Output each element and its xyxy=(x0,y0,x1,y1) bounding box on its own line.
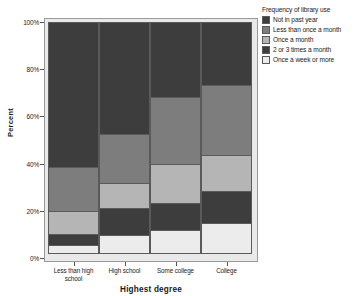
bar-segment xyxy=(150,230,201,254)
bar-segment xyxy=(150,164,201,204)
library-use-mosaic-chart: 0%20%40%60%80%100% Percent Less than hig… xyxy=(0,0,362,296)
x-tick-label: Some college xyxy=(150,267,201,275)
y-tick-mark xyxy=(40,22,44,23)
y-tick-label: 20% xyxy=(0,207,44,214)
legend-swatch-icon xyxy=(262,26,270,34)
legend-item[interactable]: Once a week or more xyxy=(262,56,362,65)
x-tick-mark xyxy=(74,262,75,266)
legend-swatch-icon xyxy=(262,56,270,64)
y-tick-mark xyxy=(40,211,44,212)
bar-segment xyxy=(48,22,99,168)
y-tick-mark xyxy=(40,116,44,117)
y-axis-label: Percent xyxy=(6,93,15,153)
bar-segment xyxy=(201,155,252,193)
bar-segment xyxy=(99,22,150,135)
bar-segment xyxy=(201,22,252,86)
y-tick-mark xyxy=(40,258,44,259)
legend-item-label: Once a month xyxy=(273,36,313,43)
bar-segment xyxy=(150,22,201,98)
x-tick-mark xyxy=(125,262,126,266)
y-tick-label: 80% xyxy=(0,66,44,73)
y-tick-label: 100% xyxy=(0,19,44,26)
bar-segment xyxy=(99,183,150,209)
legend-item-label: Less than once a month xyxy=(273,26,341,33)
x-tick-mark xyxy=(176,262,177,266)
x-tick-label: High school xyxy=(99,267,150,275)
legend-swatch-icon xyxy=(262,16,270,24)
bar-segment xyxy=(48,167,99,212)
legend-item[interactable]: Not in past year xyxy=(262,16,362,25)
y-tick-mark xyxy=(40,164,44,165)
bar-column xyxy=(201,22,252,258)
bar-segment xyxy=(150,203,201,231)
legend-item-label: Once a week or more xyxy=(273,56,334,63)
legend: Frequency of library use Not in past yea… xyxy=(262,6,362,66)
bar-segment xyxy=(201,191,252,224)
legend-title: Frequency of library use xyxy=(262,6,362,13)
bar-segment xyxy=(48,245,99,254)
x-axis-label: Highest degree xyxy=(44,285,258,294)
legend-items: Not in past yearLess than once a monthOn… xyxy=(262,16,362,65)
bar-segment xyxy=(201,85,252,156)
bar-segment xyxy=(99,208,150,236)
bar-segment xyxy=(99,235,150,254)
plot-area xyxy=(48,22,252,258)
y-tick-label: 40% xyxy=(0,160,44,167)
y-tick-mark xyxy=(40,69,44,70)
legend-swatch-icon xyxy=(262,36,270,44)
legend-item-label: Not in past year xyxy=(273,16,318,23)
legend-item[interactable]: Less than once a month xyxy=(262,26,362,35)
legend-item[interactable]: 2 or 3 times a month xyxy=(262,46,362,55)
bar-column xyxy=(99,22,150,258)
x-tick-label: College xyxy=(201,267,252,275)
legend-swatch-icon xyxy=(262,46,270,54)
x-tick-label: Less than high school xyxy=(48,267,99,282)
bar-segment xyxy=(150,97,201,165)
bar-segment xyxy=(201,223,252,254)
legend-item[interactable]: Once a month xyxy=(262,36,362,45)
bar-segment xyxy=(99,134,150,184)
bar-segment xyxy=(48,211,99,235)
x-tick-mark xyxy=(227,262,228,266)
y-tick-label: 0% xyxy=(0,255,44,262)
legend-item-label: 2 or 3 times a month xyxy=(273,46,331,53)
bar-column xyxy=(48,22,99,258)
bar-column xyxy=(150,22,201,258)
